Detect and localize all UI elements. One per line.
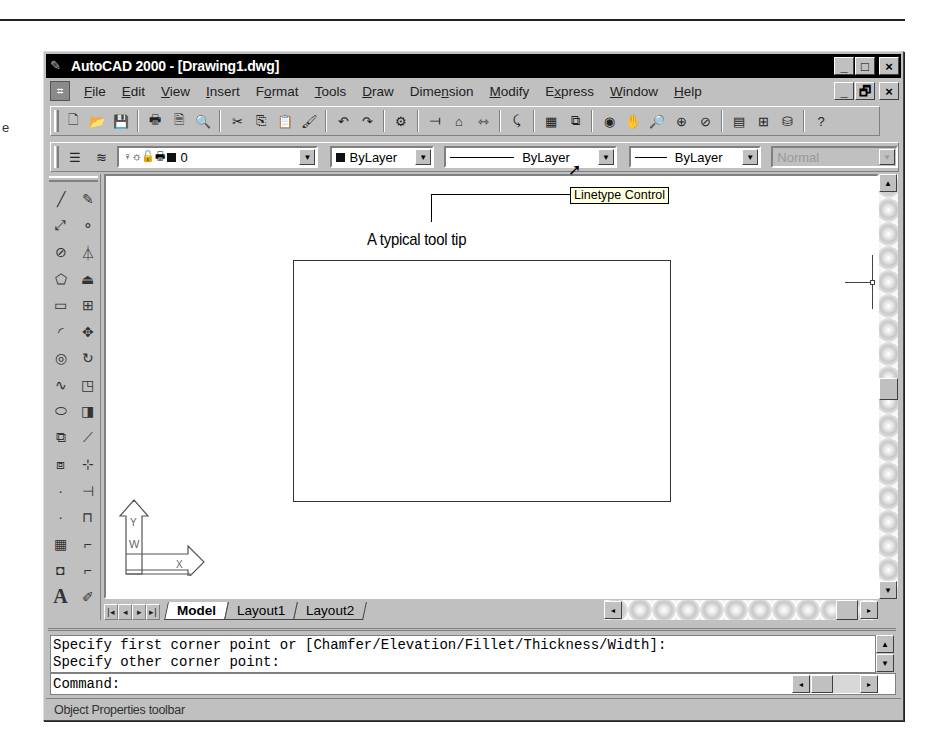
tab-layout1[interactable]: Layout1 — [224, 602, 298, 620]
menu-express[interactable]: Express — [537, 84, 602, 99]
last-tab-button[interactable]: ▸| — [146, 604, 160, 620]
lengthen-icon[interactable]: ⟋ — [74, 425, 101, 452]
scroll-down-button[interactable]: ▼ — [876, 654, 894, 672]
3d-orbit-icon[interactable]: ◉ — [598, 110, 620, 132]
explode-icon[interactable]: ✐ — [74, 584, 101, 611]
tab-model[interactable]: Model — [164, 602, 229, 620]
horizontal-scrollbar[interactable]: ◂ ▸ — [604, 600, 878, 620]
redo-icon[interactable]: ↷ — [356, 110, 378, 132]
vertical-scroll-thumb[interactable] — [879, 378, 898, 400]
redraw-icon[interactable]: ⤹ — [506, 110, 528, 132]
layer-control[interactable]: ♀☼🔓🖶 0 ▼ — [117, 146, 318, 168]
menu-modify[interactable]: Modify — [481, 84, 537, 99]
layer-previous-icon[interactable]: ≋ — [91, 146, 112, 168]
menu-window[interactable]: Window — [602, 84, 666, 99]
toolbar-grip[interactable] — [54, 146, 59, 168]
menu-tools[interactable]: Tools — [307, 84, 355, 99]
distance-icon[interactable]: ⇿ — [472, 110, 494, 132]
line-icon[interactable]: ╱ — [47, 186, 74, 213]
chevron-down-icon[interactable]: ▼ — [598, 149, 614, 165]
spline-icon[interactable]: ∿ — [47, 372, 74, 399]
document-icon[interactable]: ⌗ — [50, 81, 70, 101]
dbconnect-icon[interactable]: ⛁ — [776, 110, 798, 132]
offset-icon[interactable]: ⏏ — [74, 266, 101, 293]
zoom-previous-icon[interactable]: ⊘ — [694, 110, 716, 132]
maximize-button[interactable]: □ — [855, 57, 875, 75]
mtext-icon[interactable]: A — [47, 584, 74, 611]
zoom-realtime-icon[interactable]: 🔎 — [646, 110, 668, 132]
insert-block-icon[interactable]: ⌂ — [448, 110, 470, 132]
prev-tab-button[interactable]: ◂ — [118, 604, 132, 620]
polygon-icon[interactable]: ⬠ — [47, 266, 74, 293]
named-views-icon[interactable]: ▦ — [540, 110, 562, 132]
design-center-icon[interactable]: ⊞ — [752, 110, 774, 132]
plot-icon[interactable]: 🖶 — [144, 110, 166, 132]
scroll-right-button[interactable]: ▸ — [860, 675, 878, 693]
copy-icon[interactable]: ⎘ — [250, 110, 272, 132]
command-hscroll-thumb[interactable] — [811, 675, 833, 693]
point-icon[interactable]: · — [47, 504, 74, 531]
scroll-right-button[interactable]: ▸ — [860, 601, 878, 619]
stretch-icon[interactable]: ◨ — [74, 398, 101, 425]
pan-icon[interactable]: ✋ — [622, 110, 644, 132]
doc-close-button[interactable]: × — [879, 82, 899, 100]
close-button[interactable]: × — [879, 57, 899, 75]
title-bar[interactable]: ✎ AutoCAD 2000 - [Drawing1.dwg] _ □ × — [46, 54, 901, 78]
zoom-window-icon[interactable]: ⧉ — [564, 110, 586, 132]
rotate-icon[interactable]: ↻ — [74, 345, 101, 372]
horizontal-scroll-thumb[interactable] — [836, 600, 858, 620]
undo-icon[interactable]: ↶ — [332, 110, 354, 132]
copy-object-icon[interactable]: ⚬ — [74, 213, 101, 240]
help-icon[interactable]: ? — [810, 110, 832, 132]
scroll-up-button[interactable]: ▲ — [879, 174, 897, 192]
mirror-icon[interactable]: ⏃ — [74, 239, 101, 266]
scroll-left-button[interactable]: ◂ — [604, 601, 622, 619]
paste-icon[interactable]: 📋 — [274, 110, 296, 132]
chamfer-icon[interactable]: ⌐ — [74, 531, 101, 558]
scale-icon[interactable]: ◳ — [74, 372, 101, 399]
region-icon[interactable]: ◘ — [47, 557, 74, 584]
arc-icon[interactable]: ◜ — [47, 319, 74, 346]
color-control[interactable]: ByLayer ▼ — [330, 146, 434, 168]
open-icon[interactable]: 📂 — [86, 110, 108, 132]
menu-file[interactable]: File — [76, 84, 114, 99]
move-icon[interactable]: ✥ — [74, 319, 101, 346]
extend-icon[interactable]: ⊣ — [74, 478, 101, 505]
scroll-left-button[interactable]: ◂ — [792, 675, 810, 693]
doc-restore-button[interactable]: 🗗 — [855, 82, 875, 100]
polyline-icon[interactable]: ⊘ — [47, 239, 74, 266]
scroll-down-button[interactable]: ▼ — [879, 581, 897, 599]
toolbar-grip[interactable] — [49, 176, 98, 182]
command-input[interactable]: Command: — [50, 673, 896, 695]
fillet-icon[interactable]: ⌐ — [74, 557, 101, 584]
menu-dimension[interactable]: Dimension — [402, 84, 482, 99]
tab-layout2[interactable]: Layout2 — [293, 602, 367, 620]
construction-line-icon[interactable]: ⤢ — [47, 213, 74, 240]
menu-view[interactable]: View — [153, 84, 198, 99]
erase-icon[interactable]: ✎ — [74, 186, 101, 213]
plot-preview-icon[interactable]: 🗎 — [168, 110, 190, 132]
menu-help[interactable]: Help — [666, 84, 710, 99]
vertical-scrollbar[interactable]: ▲ ▼ — [879, 174, 898, 599]
minimize-button[interactable]: _ — [834, 57, 854, 75]
properties-icon[interactable]: ▤ — [728, 110, 750, 132]
linetype-control[interactable]: ByLayer ▼ — [444, 146, 617, 168]
layer-manager-icon[interactable]: ☰ — [64, 146, 85, 168]
lineweight-control[interactable]: ByLayer ▼ — [629, 146, 761, 168]
command-hscrollbar[interactable]: ◂ ▸ — [792, 675, 878, 693]
ellipse-icon[interactable]: ⬭ — [47, 398, 74, 425]
array-icon[interactable]: ⊞ — [74, 292, 101, 319]
save-icon[interactable]: 💾 — [110, 110, 132, 132]
circle-icon[interactable]: ◎ — [47, 345, 74, 372]
scroll-up-button[interactable]: ▲ — [876, 635, 894, 653]
next-tab-button[interactable]: ▸ — [132, 604, 146, 620]
toolbar-grip[interactable] — [54, 110, 59, 132]
chevron-down-icon[interactable]: ▼ — [299, 149, 315, 165]
menu-insert[interactable]: Insert — [198, 84, 248, 99]
new-icon[interactable]: 🗋 — [62, 110, 84, 132]
rectangle-icon[interactable]: ▭ — [47, 292, 74, 319]
break-icon[interactable]: ⊓ — [74, 504, 101, 531]
first-tab-button[interactable]: |◂ — [104, 604, 118, 620]
hatch-icon[interactable]: ▦ — [47, 531, 74, 558]
cut-icon[interactable]: ✂ — [226, 110, 248, 132]
